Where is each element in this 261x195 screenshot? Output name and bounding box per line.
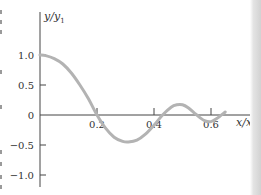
y-tick-label: −1.0	[10, 170, 34, 181]
chart: 1.00.50−0.5−1.00.20.40.6 y/y1 x/x1	[0, 0, 261, 195]
y-tick-label: 0	[28, 110, 34, 121]
y-axis-label: y/y1	[43, 10, 65, 25]
page-edge-shadow	[250, 0, 261, 195]
axes	[40, 12, 251, 187]
y-tick-label: −0.5	[10, 140, 34, 151]
left-edge-marks	[0, 0, 4, 195]
y-tick-label: 1.0	[18, 50, 34, 61]
y-tick-label: 0.5	[18, 80, 34, 91]
data-curve	[40, 55, 225, 142]
